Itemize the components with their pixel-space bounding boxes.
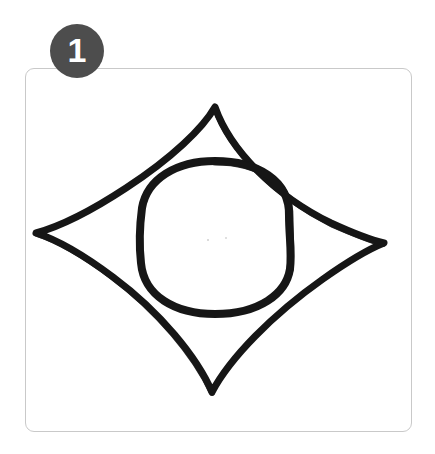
paper-speckle-2 [225,237,227,239]
inner-circle-overstroke [215,162,291,270]
concave-diamond-shape [36,107,384,392]
drawing-illustration [25,68,412,432]
concave-diamond-overstroke [215,108,383,244]
paper-speckle [207,239,209,241]
step-number-label: 1 [68,33,87,67]
drawing-svg [25,68,412,432]
step-number-badge: 1 [50,24,104,78]
tutorial-figure: 1 [0,0,435,454]
